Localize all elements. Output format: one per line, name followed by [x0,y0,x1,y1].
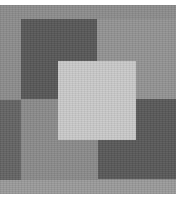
bottom-strip [0,180,176,194]
center-light-square [58,61,136,140]
artwork-canvas [0,5,176,194]
left-dark-strip [0,100,21,180]
